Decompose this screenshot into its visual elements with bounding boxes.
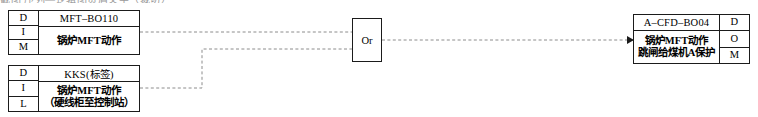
- block-description-a-cfd-bo04: 锅炉MFT动作 跳闸给煤机A保护: [634, 31, 719, 63]
- logic-diagram-canvas: 截图 序列—逻辑图页眉文字（裁切） D I M MFT–BO110 锅炉MFT动…: [0, 0, 758, 117]
- key-cell-i: I: [9, 80, 38, 95]
- or-gate-label: Or: [361, 35, 372, 46]
- key-column-mft-bo110: D I M: [9, 11, 39, 54]
- description-line-2: 跳闸给煤机A保护: [638, 47, 716, 59]
- key-cell-i: I: [9, 25, 38, 40]
- clipped-header-text: 截图 序列—逻辑图页眉文字（裁切）: [0, 0, 758, 3]
- key-cell-l: L: [9, 96, 38, 111]
- description-line-1: 锅炉MFT动作: [645, 35, 708, 47]
- signal-block-kks-tag[interactable]: D I L KKS(标签) 锅炉MFT动作 （硬线柜至控制站）: [8, 65, 140, 112]
- wire-kks-to-or: [140, 49, 352, 88]
- key-cell-d: D: [9, 66, 38, 80]
- description-line-2: （硬线柜至控制站）: [44, 97, 134, 109]
- body-column-a-cfd-bo04: A–CFD–BO04 锅炉MFT动作 跳闸给煤机A保护: [634, 15, 719, 63]
- key-cell-d: D: [720, 15, 749, 30]
- key-cell-d: D: [9, 11, 38, 25]
- body-column-mft-bo110: MFT–BO110 锅炉MFT动作: [39, 11, 139, 54]
- body-column-kks-tag: KKS(标签) 锅炉MFT动作 （硬线柜至控制站）: [39, 66, 139, 111]
- block-title-mft-bo110: MFT–BO110: [39, 11, 139, 27]
- description-line-1: 锅炉MFT动作: [57, 35, 120, 47]
- description-line-1: 锅炉MFT动作: [57, 85, 120, 97]
- key-cell-o: O: [720, 30, 749, 46]
- signal-block-mft-bo110[interactable]: D I M MFT–BO110 锅炉MFT动作: [8, 10, 140, 55]
- key-cell-m: M: [9, 39, 38, 54]
- key-cell-m: M: [720, 47, 749, 63]
- block-title-kks-tag: KKS(标签): [39, 66, 139, 82]
- clipped-header-label: 截图 序列—逻辑图页眉文字（裁切）: [0, 0, 171, 3]
- block-description-mft-bo110: 锅炉MFT动作: [39, 27, 139, 54]
- key-column-kks-tag: D I L: [9, 66, 39, 111]
- signal-block-a-cfd-bo04[interactable]: A–CFD–BO04 锅炉MFT动作 跳闸给煤机A保护 D O M: [633, 14, 750, 64]
- block-description-kks-tag: 锅炉MFT动作 （硬线柜至控制站）: [39, 82, 139, 111]
- or-gate[interactable]: Or: [352, 18, 382, 62]
- block-title-a-cfd-bo04: A–CFD–BO04: [634, 15, 719, 31]
- key-column-a-cfd-bo04: D O M: [719, 15, 749, 63]
